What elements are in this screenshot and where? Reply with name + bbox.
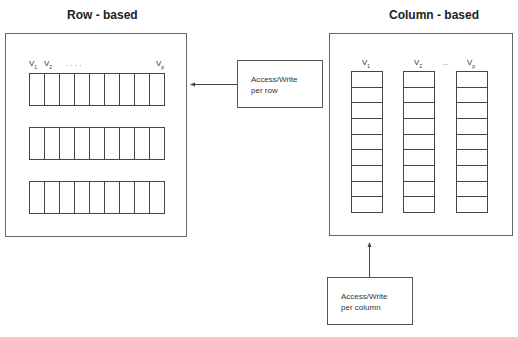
arrow-left-icon xyxy=(190,83,237,87)
connector-arrows xyxy=(0,0,518,337)
arrow-up-icon xyxy=(368,242,372,277)
